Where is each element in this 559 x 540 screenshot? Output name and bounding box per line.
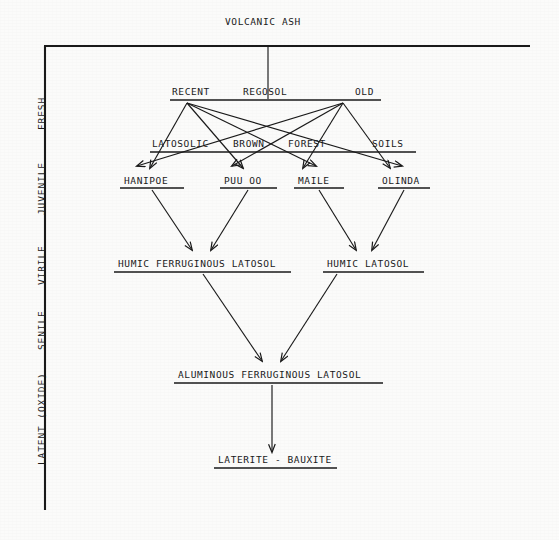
node-label-hanipoe: HANIPOE bbox=[124, 175, 168, 186]
node-label-aluminous-ferruginous-latosol: ALUMINOUS FERRUGINOUS LATOSOL bbox=[178, 369, 361, 380]
axis-stage-label-juvenile: JUVENILE bbox=[36, 162, 47, 215]
node-label-old: OLD bbox=[355, 86, 374, 97]
arrow-maile-to-humic-latosol bbox=[319, 190, 356, 250]
arrow-old-to-olinda bbox=[343, 103, 390, 168]
axis-stage-label-latent-oxide: LATENT (OXIDE) bbox=[36, 372, 47, 465]
node-label-brown: BROWN bbox=[233, 138, 265, 149]
flow-arrows bbox=[137, 47, 404, 452]
node-underlines bbox=[44, 46, 530, 468]
arrow-olinda-to-humic-latosol bbox=[372, 190, 404, 250]
arrow-humic-ferruginous-latosol-to-aluminous-ferruginous-latosol bbox=[203, 274, 262, 361]
diagram-page: VOLCANIC ASHRECENTREGOSOLOLDLATOSOLICBRO… bbox=[0, 0, 559, 540]
node-label-puu-oo: PUU OO bbox=[224, 175, 262, 186]
arrow-hanipoe-to-humic-ferruginous-latosol bbox=[152, 190, 192, 250]
node-label-maile: MAILE bbox=[298, 175, 330, 186]
arrow-recent-to-puu-oo bbox=[187, 103, 243, 168]
axis-stage-label-virile: VIRILE bbox=[36, 245, 47, 285]
node-label-laterite-bauxite: LATERITE - BAUXITE bbox=[218, 454, 332, 465]
node-label-forest: FOREST bbox=[288, 138, 326, 149]
arrow-old-to-maile bbox=[303, 103, 343, 168]
node-label-olinda: OLINDA bbox=[382, 175, 420, 186]
arrow-puu-oo-to-humic-ferruginous-latosol bbox=[211, 190, 248, 250]
axis-stage-label-fresh: FRESH bbox=[36, 97, 47, 130]
node-label-humic-ferruginous-latosol: HUMIC FERRUGINOUS LATOSOL bbox=[118, 258, 276, 269]
arrow-humic-latosol-to-aluminous-ferruginous-latosol bbox=[281, 274, 337, 361]
node-label-recent: RECENT bbox=[172, 86, 210, 97]
arrow-recent-to-hanipoe bbox=[150, 103, 187, 168]
node-label-soils: SOILS bbox=[372, 138, 404, 149]
node-label-regosol: REGOSOL bbox=[243, 86, 287, 97]
arrow-old-to-puu-oo bbox=[232, 103, 343, 166]
axis-stage-label-senile: SENILE bbox=[36, 310, 47, 350]
node-label-volcanic-ash: VOLCANIC ASH bbox=[225, 16, 301, 27]
arrow-recent-to-olinda bbox=[187, 103, 402, 166]
node-label-latosolic: LATOSOLIC bbox=[152, 138, 209, 149]
arrow-old-to-hanipoe bbox=[137, 103, 343, 166]
node-label-humic-latosol: HUMIC LATOSOL bbox=[327, 258, 409, 269]
arrow-recent-to-maile bbox=[187, 103, 316, 166]
